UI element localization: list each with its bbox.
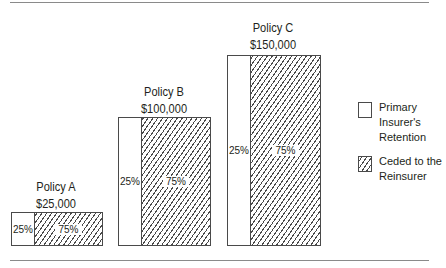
policy-b-amount: $100,000 [130, 100, 198, 117]
policy-a-ceded-pct: 75% [55, 224, 81, 235]
policy-c-retention-pct: 25% [229, 145, 249, 156]
ceded-hatch-swatch-icon [358, 156, 372, 172]
policy-b-name: Policy B [130, 83, 198, 100]
legend-ceded: Ceded to the Reinsurer [358, 154, 446, 184]
policy-b-label: Policy B $100,000 [130, 83, 198, 117]
policy-a-retention-pct: 25% [13, 224, 33, 235]
policy-b-ceded-pct: 75% [163, 176, 189, 187]
policy-c-retention-segment: 25% [228, 56, 251, 245]
policy-c-name: Policy C [239, 19, 307, 36]
policy-a-label: Policy A $25,000 [22, 178, 90, 212]
policy-a-bar: 25% 75% [11, 212, 103, 246]
policy-a-retention-segment: 25% [12, 213, 35, 245]
policy-c-amount: $150,000 [239, 36, 307, 53]
bottom-rule [10, 260, 429, 261]
top-rule [10, 2, 429, 3]
policy-a-name: Policy A [22, 178, 90, 195]
legend-retention: Primary Insurer's Retention [358, 100, 446, 145]
retention-swatch-icon [358, 102, 372, 118]
policy-b-retention-pct: 25% [120, 176, 140, 187]
policy-b-bar: 25% 75% [118, 117, 211, 246]
policy-a-amount: $25,000 [22, 195, 90, 212]
policy-c-ceded-pct: 75% [272, 145, 298, 156]
policy-c-ceded-segment: 75% [251, 56, 320, 245]
policy-a-ceded-segment: 75% [35, 213, 102, 245]
policy-b-retention-segment: 25% [119, 118, 142, 245]
policy-c-label: Policy C $150,000 [239, 19, 307, 53]
policy-b-ceded-segment: 75% [142, 118, 210, 245]
legend-retention-label: Primary Insurer's Retention [379, 100, 446, 145]
policy-c-bar: 25% 75% [227, 55, 321, 246]
legend-ceded-label: Ceded to the Reinsurer [379, 154, 446, 184]
